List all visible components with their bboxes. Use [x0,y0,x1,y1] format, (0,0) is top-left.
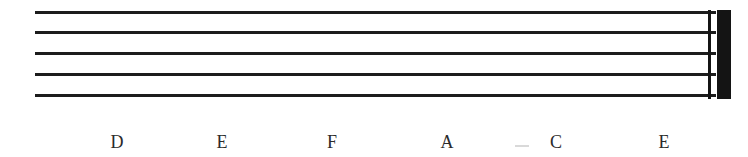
staff-line-2 [35,31,716,34]
thick-barline [717,10,731,99]
music-staff [35,11,731,99]
staff-line-3 [35,52,716,55]
worksheet-page: D E F A C E [0,0,748,157]
staff-line-4 [35,73,716,76]
note-letter-3: F [321,132,343,152]
note-letter-row: D E F A C E [0,132,748,157]
thin-barline [708,10,711,99]
staff-line-1 [35,11,716,14]
note-letter-5: C [545,132,567,152]
note-letter-4: A [436,132,458,152]
note-letter-6: E [653,132,675,152]
scan-artifact [515,145,529,147]
final-barline [708,10,731,99]
note-letter-1: D [106,132,128,152]
staff-line-5 [35,94,716,97]
note-letter-2: E [211,132,233,152]
